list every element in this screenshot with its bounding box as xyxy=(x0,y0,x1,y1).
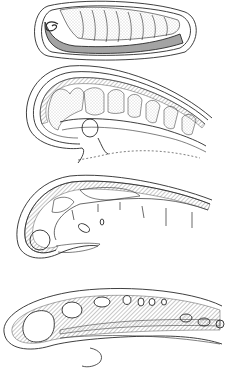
panel-1-capsule xyxy=(35,1,197,60)
panel-4-section xyxy=(4,288,224,366)
panel-3-section xyxy=(17,175,212,258)
panel-2-section xyxy=(26,66,212,163)
embryo-illustration-figure xyxy=(0,0,230,373)
figure-canvas xyxy=(0,0,230,373)
